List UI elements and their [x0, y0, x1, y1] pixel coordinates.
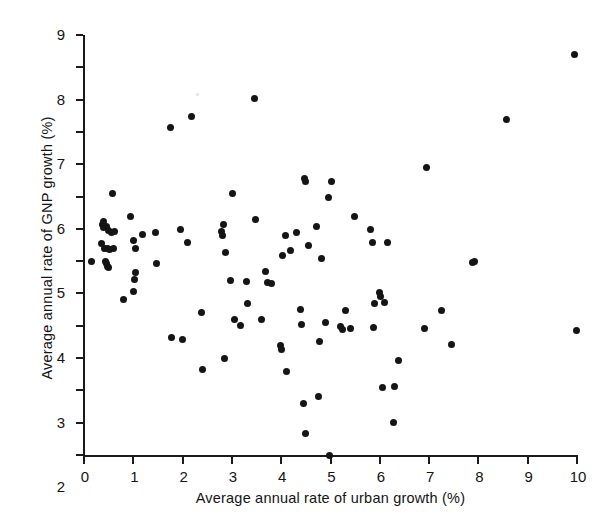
y-tick: -1 — [76, 357, 83, 359]
y-tick-label: 4 — [57, 349, 65, 366]
data-point — [251, 95, 258, 102]
data-point — [390, 419, 397, 426]
data-point — [220, 221, 227, 228]
x-tick-label: 4 — [278, 468, 286, 485]
data-point — [88, 258, 95, 265]
data-point — [179, 336, 186, 343]
y-tick: -4 — [76, 454, 83, 456]
data-point — [293, 229, 300, 236]
data-point — [302, 178, 309, 185]
data-point — [318, 255, 325, 262]
data-point — [315, 393, 322, 400]
scatter-plot-figure: Average annual rate of GNP growth (%) -4… — [0, 0, 607, 530]
y-tick: 7 — [76, 99, 83, 101]
data-point — [222, 249, 229, 256]
x-tick — [527, 457, 529, 464]
y-tick-label: 7 — [57, 155, 65, 172]
y-tick: -2 — [76, 389, 83, 391]
data-point — [421, 325, 428, 332]
data-point — [219, 232, 226, 239]
x-tick — [379, 457, 381, 464]
data-point — [258, 316, 265, 323]
data-point — [227, 277, 234, 284]
y-tick: 5 — [76, 163, 83, 165]
data-point — [423, 164, 430, 171]
data-point — [328, 178, 335, 185]
data-point — [198, 309, 205, 316]
data-point — [391, 383, 398, 390]
data-point — [305, 242, 312, 249]
data-point — [262, 268, 269, 275]
data-point — [127, 213, 134, 220]
y-tick: 9 — [76, 34, 83, 36]
data-point — [184, 239, 191, 246]
x-tick — [477, 457, 479, 464]
y-tick-label: 2 — [57, 478, 65, 495]
paper-speck — [196, 93, 199, 96]
data-point — [313, 223, 320, 230]
y-tick: 0 — [76, 325, 83, 327]
data-point — [167, 124, 174, 131]
x-tick — [83, 457, 85, 464]
data-point — [367, 226, 374, 233]
y-tick-label: 5 — [57, 284, 65, 301]
data-point — [153, 260, 160, 267]
data-point — [130, 237, 137, 244]
data-point — [132, 269, 139, 276]
data-point — [168, 334, 175, 341]
x-tick — [576, 457, 578, 464]
data-point — [438, 307, 445, 314]
data-point — [316, 338, 323, 345]
x-tick — [231, 457, 233, 464]
x-tick-label: 5 — [327, 468, 335, 485]
data-point — [339, 326, 346, 333]
data-point — [342, 307, 349, 314]
x-tick — [280, 457, 282, 464]
data-point — [571, 51, 578, 58]
data-point — [139, 231, 146, 238]
y-axis-line — [83, 35, 85, 456]
data-point — [369, 239, 376, 246]
y-axis-label: Average annual rate of GNP growth (%) — [30, 18, 64, 478]
data-point — [188, 113, 195, 120]
data-point — [325, 194, 332, 201]
data-point — [371, 300, 378, 307]
data-point — [252, 216, 259, 223]
data-point — [120, 296, 127, 303]
data-point — [326, 452, 333, 459]
data-point — [131, 276, 138, 283]
data-point — [229, 190, 236, 197]
y-tick: 6 — [76, 131, 83, 133]
data-point — [395, 357, 402, 364]
y-tick-label: 6 — [57, 219, 65, 236]
data-point — [199, 366, 206, 373]
data-point — [243, 278, 250, 285]
data-point — [152, 229, 159, 236]
data-point — [244, 300, 251, 307]
data-point — [287, 247, 294, 254]
x-tick-label: 9 — [525, 468, 533, 485]
data-point — [370, 324, 377, 331]
data-point — [279, 252, 286, 259]
data-point — [297, 306, 304, 313]
y-tick: 2 — [76, 260, 83, 262]
data-point — [110, 245, 117, 252]
data-point — [221, 355, 228, 362]
data-point — [573, 327, 580, 334]
data-point — [130, 288, 137, 295]
y-tick: -3 — [76, 422, 83, 424]
data-point — [105, 264, 112, 271]
y-tick-label: 8 — [57, 90, 65, 107]
data-point — [111, 228, 118, 235]
data-point — [298, 321, 305, 328]
data-point — [503, 116, 510, 123]
y-tick-label: 3 — [57, 413, 65, 430]
data-point — [379, 384, 386, 391]
data-point — [300, 400, 307, 407]
data-point — [322, 319, 329, 326]
data-point — [278, 346, 285, 353]
y-tick: 1 — [76, 292, 83, 294]
x-tick-label: 3 — [229, 468, 237, 485]
data-point — [237, 322, 244, 329]
y-tick: 8 — [76, 66, 83, 68]
